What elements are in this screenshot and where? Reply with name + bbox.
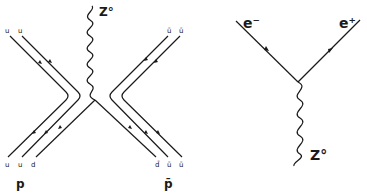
z-boson-wavy-line xyxy=(87,6,95,100)
quark-line-outer-left xyxy=(8,36,68,157)
antiquark-line-outer-right xyxy=(122,36,182,157)
antiquark-line-inner-right xyxy=(110,36,168,157)
quark-label: u xyxy=(18,161,22,169)
antiquark-label: ū xyxy=(167,27,171,35)
left-feynman-diagram: Z° u u ū ū u u d d̄ ū ū p p̄ xyxy=(5,5,183,191)
arrow-icon xyxy=(38,60,42,64)
arrow-icon xyxy=(58,125,62,129)
antiquark-label: ū xyxy=(179,161,183,169)
antiquark-label: ū xyxy=(179,27,183,35)
quark-label: u xyxy=(5,27,9,35)
positron-label: e⁺ xyxy=(339,15,356,31)
z-boson-wavy-line xyxy=(294,82,303,166)
arrow-icon xyxy=(128,125,132,129)
proton-label: p xyxy=(16,177,25,191)
antiquark-line-dbar xyxy=(95,100,156,157)
antiproton-label: p̄ xyxy=(164,177,173,191)
quark-label: d xyxy=(31,161,35,169)
right-feynman-diagram: e⁻ e⁺ Z° xyxy=(236,15,360,166)
quark-label: u xyxy=(18,27,22,35)
antiquark-label: d̄ xyxy=(155,160,160,169)
quark-line-inner-left xyxy=(22,36,80,157)
arrow-icon xyxy=(264,46,269,51)
electron-label: e⁻ xyxy=(243,15,260,31)
arrow-icon xyxy=(328,48,333,53)
antiquark-label: ū xyxy=(167,161,171,169)
quark-label: u xyxy=(5,161,9,169)
feynman-diagrams: Z° u u ū ū u u d d̄ ū ū p p̄ e⁻ e⁺ Z° xyxy=(0,0,367,194)
z-boson-label: Z° xyxy=(310,147,327,163)
quark-line-d xyxy=(36,100,95,157)
z-boson-label: Z° xyxy=(99,5,114,19)
